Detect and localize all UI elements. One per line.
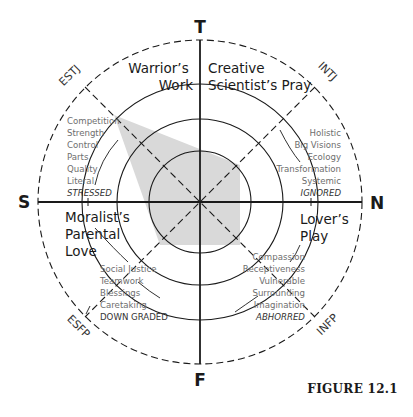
axis-label-t: T (194, 17, 206, 37)
trait-item: Blessings (100, 288, 141, 298)
leader-line (95, 140, 118, 185)
trait-item: Vulnerable (259, 276, 305, 286)
trait-item: Transformation (276, 164, 341, 174)
trait-item: Receptiveness (243, 264, 306, 274)
trait-item: Strength (67, 128, 104, 138)
trait-item: Literal (67, 176, 94, 186)
trait-list-upper-left: Competition Strength Control Parts Quali… (67, 116, 120, 198)
state-label-stressed: STRESSED (67, 188, 112, 198)
trait-item: Compassion (253, 252, 305, 262)
trait-item: Ecology (307, 152, 341, 162)
trait-item: Systemic (302, 176, 341, 186)
trait-item: Big Visions (294, 140, 341, 150)
axis-label-s: S (18, 192, 30, 212)
quadrant-title-creative-scientist: Creative Scientist’s Pray (208, 60, 311, 93)
type-label-estj: ESTJ (56, 62, 82, 88)
trait-item: Teamwork (99, 276, 144, 286)
trait-item: Imagination (254, 300, 305, 310)
trait-item: Social Justice (100, 264, 156, 274)
type-label-infp: INFP (314, 311, 341, 338)
state-label-down-graded: DOWN GRADED (100, 312, 168, 322)
quadrant-title-moralists-parental-love: Moralist’s Parental Love (65, 209, 134, 259)
trait-item: Caretaking (100, 300, 147, 310)
trait-list-upper-right: Holistic Big Visions Ecology Transformat… (276, 128, 342, 198)
trait-item: Competition (67, 116, 120, 126)
quadrant-title-warriors-work: Warrior’s Work (128, 60, 193, 93)
trait-item: Holistic (310, 128, 342, 138)
axis-label-f: F (194, 370, 206, 390)
trait-item: Parts (67, 152, 89, 162)
type-label-intj: INTJ (315, 59, 339, 83)
state-label-ignored: IGNORED (301, 188, 342, 198)
trait-item: Surrounding (252, 288, 305, 298)
trait-item: Quality (67, 164, 98, 174)
quadrant-title-lovers-play: Lover’s Play (300, 211, 353, 244)
trait-item: Control (67, 140, 98, 150)
trait-list-lower-right: Compassion Receptiveness Vulnerable Surr… (243, 252, 306, 322)
figure-caption: FIGURE 12.1 (307, 382, 398, 396)
state-label-abhorred: ABHORRED (255, 312, 305, 322)
personality-circle-diagram: T F S N ESTJ INTJ ESFP INFP Warrior’s Wo… (0, 0, 413, 417)
axis-label-n: N (370, 193, 384, 213)
trait-list-lower-left: Social Justice Teamwork Blessings Careta… (99, 264, 168, 322)
type-label-esfp: ESFP (64, 312, 92, 340)
